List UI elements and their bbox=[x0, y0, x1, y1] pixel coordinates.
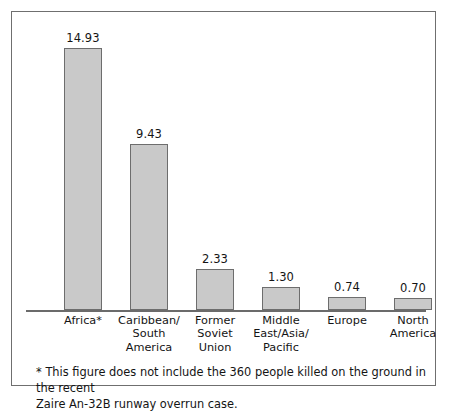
category-label: Caribbean/SouthAmerica bbox=[116, 314, 182, 354]
category-label-line: Africa* bbox=[50, 314, 116, 327]
bar-value-label: 0.74 bbox=[334, 280, 360, 294]
category-label-line: East/Asia/ bbox=[248, 327, 314, 340]
bar[interactable] bbox=[64, 48, 102, 310]
x-axis-category-labels: Africa*Caribbean/SouthAmericaFormerSovie… bbox=[26, 314, 426, 360]
category-label: NorthAmerica bbox=[380, 314, 446, 341]
bar-value-label: 0.70 bbox=[400, 281, 426, 295]
category-label-line: Middle bbox=[248, 314, 314, 327]
bar-group: 9.43 bbox=[116, 20, 182, 310]
category-label-line: Former bbox=[182, 314, 248, 327]
x-axis-line bbox=[26, 310, 426, 312]
bar[interactable] bbox=[130, 144, 168, 310]
bar-value-label: 1.30 bbox=[268, 270, 294, 284]
figure-border: 14.939.432.331.300.740.70 Africa*Caribbe… bbox=[11, 11, 436, 386]
category-label: FormerSovietUnion bbox=[182, 314, 248, 354]
chart-plot-area: 14.939.432.331.300.740.70 bbox=[26, 20, 426, 312]
bar-value-label: 2.33 bbox=[202, 252, 228, 266]
category-label-line: America bbox=[116, 341, 182, 354]
bar-group: 0.70 bbox=[380, 20, 446, 310]
bar[interactable] bbox=[394, 298, 432, 310]
category-label-line: Pacific bbox=[248, 341, 314, 354]
bar-group: 2.33 bbox=[182, 20, 248, 310]
category-label-line: America bbox=[380, 327, 446, 340]
bar[interactable] bbox=[262, 287, 300, 310]
category-label: Europe bbox=[314, 314, 380, 327]
category-label-line: Europe bbox=[314, 314, 380, 327]
category-label: MiddleEast/Asia/Pacific bbox=[248, 314, 314, 354]
bar-value-label: 14.93 bbox=[66, 31, 99, 45]
footnote-line-2: Zaire An-32B runway overrun case. bbox=[36, 397, 238, 411]
footnote-line-1: * This figure does not include the 360 p… bbox=[36, 365, 426, 395]
category-label: Africa* bbox=[50, 314, 116, 327]
category-label-line: Caribbean/ bbox=[116, 314, 182, 327]
footnote: * This figure does not include the 360 p… bbox=[36, 364, 426, 412]
bar-group: 14.93 bbox=[50, 20, 116, 310]
bar-group: 1.30 bbox=[248, 20, 314, 310]
category-label-line: South bbox=[116, 327, 182, 340]
category-label-line: North bbox=[380, 314, 446, 327]
bar-value-label: 9.43 bbox=[136, 127, 162, 141]
bar[interactable] bbox=[196, 269, 234, 310]
bar-group: 0.74 bbox=[314, 20, 380, 310]
category-label-line: Union bbox=[182, 341, 248, 354]
category-label-line: Soviet bbox=[182, 327, 248, 340]
bar[interactable] bbox=[328, 297, 366, 310]
